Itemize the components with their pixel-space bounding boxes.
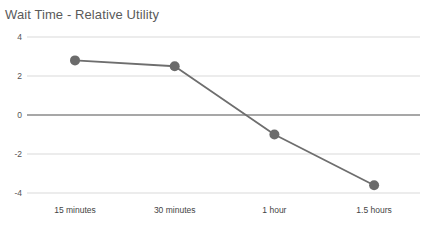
chart-container: Wait Time - Relative Utility 420-2-4 15 … <box>0 0 427 229</box>
y-axis-tick-label: -2 <box>2 149 22 159</box>
data-point-marker <box>369 180 379 190</box>
data-point-marker <box>70 55 80 65</box>
x-axis-tick-label: 15 minutes <box>54 205 96 215</box>
y-axis-tick-label: -4 <box>2 188 22 198</box>
x-axis-tick-label: 1.5 hours <box>356 205 391 215</box>
x-axis-tick-label: 30 minutes <box>154 205 196 215</box>
data-point-marker <box>170 61 180 71</box>
y-axis-tick-label: 0 <box>2 110 22 120</box>
x-axis-tick-label: 1 hour <box>262 205 286 215</box>
data-point-marker <box>269 130 279 140</box>
y-axis-tick-label: 4 <box>2 32 22 42</box>
y-axis-tick-label: 2 <box>2 71 22 81</box>
data-line-series <box>75 60 374 185</box>
chart-plot-area <box>0 0 427 229</box>
